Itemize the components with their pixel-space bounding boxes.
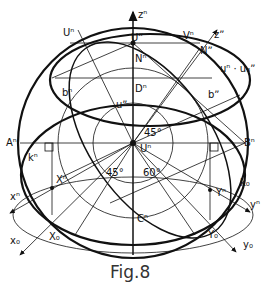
label-V-n: Vⁿ (183, 30, 194, 41)
label-N-n: Nⁿ (135, 53, 146, 64)
label-z-star: zˮ (214, 29, 224, 40)
label-u-star: uˮ (116, 99, 128, 110)
label-angle-60: 60° (143, 167, 161, 178)
point-X (50, 186, 54, 190)
label-b-star: bˮ (208, 89, 220, 100)
label-z-n: zⁿ (138, 9, 147, 20)
label-C-n: Cⁿ (137, 213, 148, 224)
label-X-n: Xⁿ (56, 174, 67, 185)
label-x-n: xⁿ (10, 191, 20, 202)
sphere-projection-diagram: zⁿ Uⁿ Uˮ Vⁿ zˮ Nˮ Nⁿ uⁿ · u₃ˮ bⁿ Dⁿ bˮ u… (0, 0, 266, 287)
label-x-0: x₀ (10, 235, 20, 246)
label-U-n-center: Uⁿ (140, 143, 151, 154)
label-X-0: X₀ (49, 231, 60, 242)
label-Y-n: Yⁿ (215, 187, 226, 198)
label-b-n: bⁿ (62, 87, 72, 98)
label-N-star: Nˮ (200, 45, 213, 56)
label-Y-0: Y₀ (207, 229, 218, 240)
label-k-0: k₀ (240, 177, 250, 188)
figure-caption: Fig.8 (110, 262, 150, 282)
label-y-n: yⁿ (250, 199, 260, 210)
right-angle-mark-right (210, 143, 218, 151)
point-Y (208, 188, 212, 192)
label-B-n: Bⁿ (244, 137, 255, 148)
label-k-n: kⁿ (28, 152, 38, 163)
label-u-equation: uⁿ · u₃ˮ (220, 63, 255, 74)
label-U-n-top: Uⁿ (63, 27, 74, 38)
upper-circle-ellipse (50, 34, 250, 126)
point-center (130, 140, 136, 146)
label-D-n: Dⁿ (135, 83, 147, 94)
chord-2 (52, 43, 133, 78)
label-angle-45-upper: 45° (144, 127, 162, 138)
label-angle-45-lower: 45° (106, 167, 124, 178)
label-U-star-top: Uˮ (131, 32, 144, 43)
label-A-n: Aⁿ (6, 137, 17, 148)
label-y-0: y₀ (243, 239, 253, 250)
